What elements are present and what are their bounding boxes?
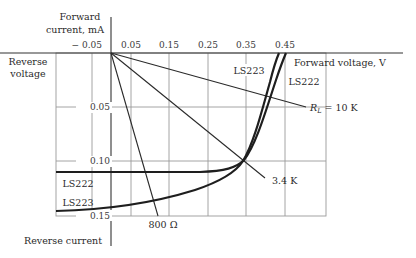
x-tick-015: 0.15 (159, 40, 179, 50)
label-ls222-top: LS222 (289, 76, 320, 87)
reverse-current-label: Reverse current (24, 235, 102, 246)
load-line-800 (111, 53, 158, 216)
reverse-voltage-line2: voltage (9, 68, 46, 79)
label-800-ohm: 800 Ω (148, 219, 177, 230)
reverse-voltage-line1: Reverse (9, 56, 48, 67)
y-axis-title-line1: Forward (60, 11, 101, 22)
y-tick-010: 0.10 (90, 156, 110, 166)
x-tick-m005: − 0.05 (72, 40, 103, 50)
x-tick-035: 0.35 (236, 40, 256, 50)
x-tick-045: 0.45 (275, 40, 295, 50)
x-tick-025: 0.25 (198, 40, 218, 50)
label-3-4k: 3.4 K (272, 175, 298, 186)
label-ls223-left: LS223 (63, 197, 94, 208)
label-ls223-top: LS223 (234, 65, 265, 76)
label-ls222-left: LS222 (63, 178, 94, 189)
x-tick-005: 0.05 (121, 40, 141, 50)
y-tick-015: 0.15 (90, 211, 110, 221)
y-axis-title-line2: current, mA (46, 24, 104, 35)
y-tick-005: 0.05 (90, 102, 110, 112)
label-rl-10k: RL = 10 K (309, 102, 359, 115)
diode-characteristic-chart: − 0.05 0.05 0.15 0.25 0.35 0.45 0.05 0.1… (0, 0, 416, 258)
x-axis-title: Forward voltage, V (294, 57, 386, 68)
